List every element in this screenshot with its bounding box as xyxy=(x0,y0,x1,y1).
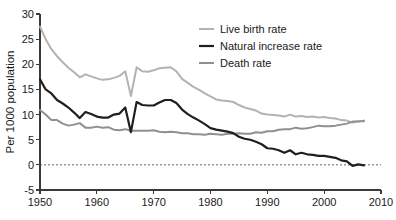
y-axis-tick-label: 0 xyxy=(28,159,34,171)
y-axis-tick-label: 5 xyxy=(28,134,34,146)
line-chart: -5051015202530Per 1000 population1950196… xyxy=(0,0,396,220)
x-axis-tick-label: 1960 xyxy=(85,196,109,208)
x-axis-tick-label: 1970 xyxy=(141,196,165,208)
y-axis-tick-label: 20 xyxy=(22,58,34,70)
legend-label-2: Death rate xyxy=(220,57,271,69)
y-axis-tick-label: 25 xyxy=(22,33,34,45)
x-axis-tick-label: 1990 xyxy=(255,196,279,208)
y-axis-tick-label: 10 xyxy=(22,109,34,121)
y-axis-title: Per 1000 population xyxy=(4,51,16,154)
x-axis-tick-label: 2000 xyxy=(312,196,336,208)
x-axis-tick-label: 1950 xyxy=(28,196,52,208)
x-axis-tick-label: 2010 xyxy=(369,196,393,208)
chart-container: -5051015202530Per 1000 population1950196… xyxy=(0,0,396,220)
legend-label-0: Live birth rate xyxy=(220,23,287,35)
x-axis-tick-label: 1980 xyxy=(198,196,222,208)
legend-label-1: Natural increase rate xyxy=(220,40,322,52)
y-axis-tick-label: -5 xyxy=(24,184,34,196)
y-axis-tick-label: 30 xyxy=(22,8,34,20)
y-axis-tick-label: 15 xyxy=(22,83,34,95)
